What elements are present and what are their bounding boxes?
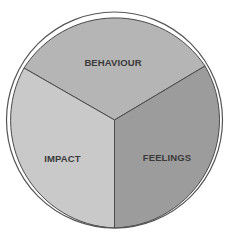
label-impact: IMPACT: [44, 153, 80, 164]
behaviour-impact-feelings-diagram: BEHAVIOUR IMPACT FEELINGS: [0, 0, 232, 241]
label-feelings: FEELINGS: [143, 152, 191, 163]
label-behaviour: BEHAVIOUR: [84, 57, 141, 68]
